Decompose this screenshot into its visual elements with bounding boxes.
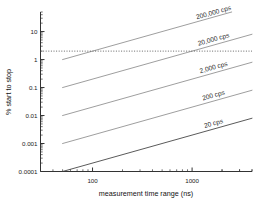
y-axis-tick-label: 0.001 <box>22 140 38 147</box>
x-axis-tick-label: 1000 <box>185 177 199 184</box>
series-labels-group: 200,000 cps20,000 cps2,000 cps200 cps20 … <box>195 4 232 130</box>
chart-canvas: 200,000 cps20,000 cps2,000 cps200 cps20 … <box>0 0 258 204</box>
x-axis-ticks <box>41 168 253 172</box>
y-axis-tick-label: 0.0001 <box>19 168 38 175</box>
x-axis-tick-labels: 1001000 <box>87 177 199 184</box>
y-axis-tick-label: 0.1 <box>29 84 38 91</box>
series-line <box>63 118 252 171</box>
series-label: 200,000 cps <box>195 4 232 22</box>
y-axis-title: % start to stop <box>4 69 13 115</box>
y-axis-ticks <box>41 12 45 172</box>
series-line <box>63 90 252 143</box>
y-axis-tick-label: 0.01 <box>25 112 38 119</box>
x-axis-title: measurement time range (ns) <box>99 189 193 198</box>
y-axis-tick-label: 1 <box>34 56 38 63</box>
y-axis-tick-label: 10 <box>31 28 38 35</box>
y-axis-tick-labels: 1010.10.010.0010.0001 <box>19 28 38 175</box>
chart-figure: 200,000 cps20,000 cps2,000 cps200 cps20 … <box>0 0 258 204</box>
series-label: 200 cps <box>201 88 226 102</box>
x-axis-tick-label: 100 <box>87 177 98 184</box>
series-line <box>63 12 232 60</box>
series-label: 20 cps <box>203 117 225 130</box>
